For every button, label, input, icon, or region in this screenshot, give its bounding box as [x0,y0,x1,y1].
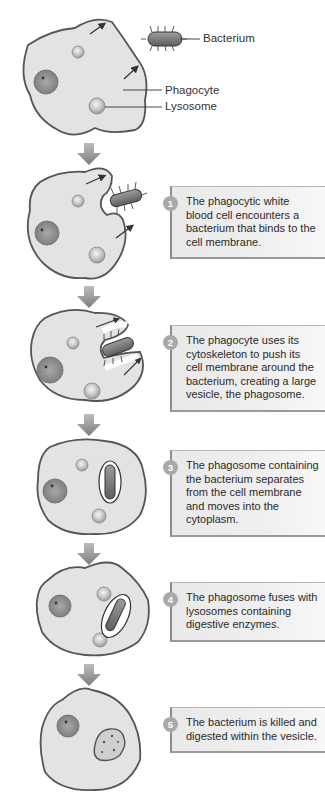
step-box-2: 2 The phagocyte uses its cytoskeleton to… [170,325,325,412]
nucleus-icon [37,357,63,383]
lysosome-icon [72,46,84,58]
step-description: The phagocyte uses its cytoskeleton to p… [186,334,319,402]
nucleus-icon [57,715,79,737]
phagocyte-cell-5 [41,688,141,790]
bacterium-label: Bacterium [203,32,255,44]
step-box-1: 1 The phagocytic white blood cell encoun… [170,186,325,259]
step-description: The phagosome fuses with lysosomes conta… [186,591,319,632]
step-number-badge: 4 [163,592,178,607]
step-description: The bacterium is killed and digested wit… [186,716,319,743]
flow-arrow-icon [77,286,101,308]
step-description: The phagocytic white blood cell encounte… [186,195,319,249]
nucleus-icon [34,70,58,94]
step-number-badge: 5 [163,717,178,732]
step-box-5: 5 The bacterium is killed and digested w… [170,707,325,753]
nucleus-icon [35,221,59,245]
phagocyte-cell-1 [28,168,147,278]
flow-arrow-icon [77,543,101,565]
step-description: The phagosome containing the bacterium s… [186,459,319,527]
nucleus-icon [49,595,71,617]
step-box-4: 4 The phagosome fuses with lysosomes con… [170,582,325,642]
lysosome-icon [67,337,79,349]
flow-arrow-icon [77,414,101,436]
lysosome-icon [89,98,105,114]
step-number-badge: 3 [163,460,178,475]
step-box-3: 3 The phagosome containing the bacterium… [170,450,325,537]
lysosome-label: Lysosome [165,100,217,112]
phagocyte-label: Phagocyte [165,84,219,96]
lysosome-icon [84,383,100,399]
lysosome-icon [76,459,88,471]
phagocyte-cell-4 [37,563,149,656]
phagocyte-cell-3 [37,439,145,534]
flow-arrow-icon [77,664,101,686]
flow-arrow-icon [77,143,101,165]
step-number-badge: 1 [163,196,178,211]
lysosome-icon [92,509,106,523]
bacterium-icon [141,26,200,51]
phagocyte-cell-2 [31,310,143,401]
step-number-badge: 2 [163,335,178,350]
phagocyte-cell-0 [23,20,162,135]
lysosome-icon [89,247,105,263]
lysosome-icon [97,587,111,601]
nucleus-icon [43,479,67,503]
lysosome-icon [72,195,84,207]
